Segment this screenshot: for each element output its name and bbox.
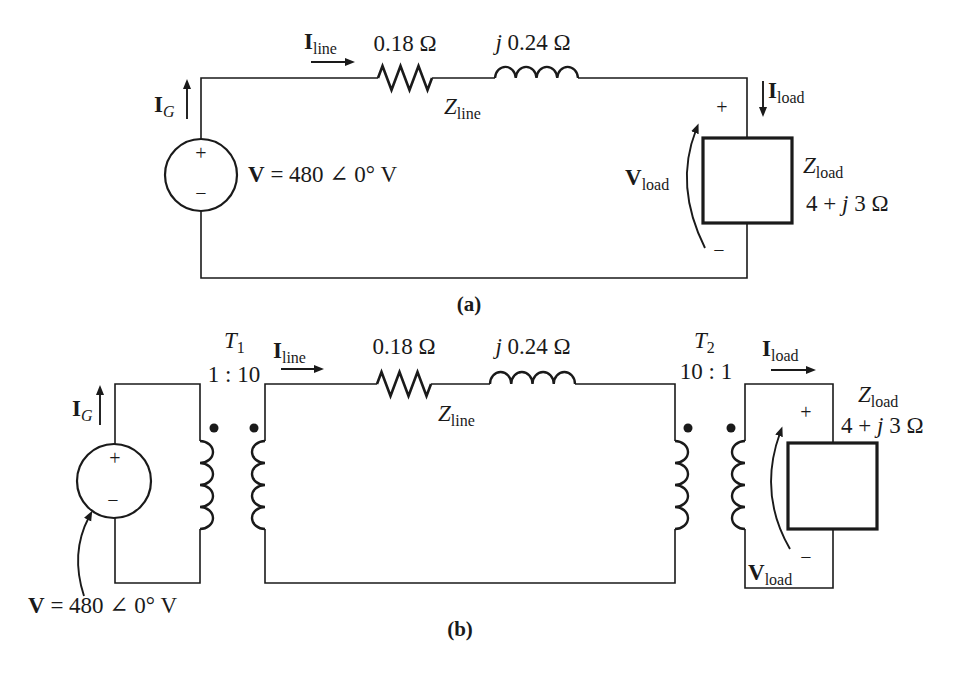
wire-middle-top-right-b xyxy=(575,384,675,441)
line-current-label-a: Iline xyxy=(304,29,337,57)
current-sub: load xyxy=(777,89,805,106)
load-plus-sign-b: + xyxy=(800,401,811,423)
load-impedance-value-b: 4 + j 3 Ω xyxy=(841,413,923,438)
resistor-symbol-a xyxy=(378,66,432,90)
transformer2-name: T2 xyxy=(694,328,715,356)
circuit-a: + − V = 480 ∠ 0° V IG Iline 0.18 Ω j 0.2… xyxy=(154,29,888,316)
minus-glyph: − xyxy=(107,489,118,511)
impedance-sub: line xyxy=(451,412,475,429)
vector-i: I xyxy=(768,78,777,103)
line-current-label-b: Iline xyxy=(273,338,306,366)
vector-v: V xyxy=(28,593,45,618)
value-post: 3 Ω xyxy=(883,413,923,438)
wire-load-loop-top-b xyxy=(745,384,833,443)
minus-glyph: − xyxy=(713,239,724,261)
vector-v: V xyxy=(748,560,765,585)
current-sub: G xyxy=(163,103,175,120)
voltage-sub: load xyxy=(765,571,793,588)
minus-glyph: − xyxy=(800,546,811,568)
wire-bottom-a xyxy=(201,211,747,278)
value-pre: 4 + xyxy=(806,191,842,216)
load-minus-sign-b: − xyxy=(800,546,811,568)
resistor-value-text: 0.18 Ω xyxy=(372,334,435,359)
load-current-label-b: Iload xyxy=(762,336,799,364)
vector-i: I xyxy=(72,396,81,421)
inductor-symbol-a xyxy=(495,67,578,78)
z-symbol: Z xyxy=(438,401,451,426)
caption-a: (a) xyxy=(457,292,482,316)
current-sub: line xyxy=(313,40,337,57)
value-post: 3 Ω xyxy=(848,191,888,216)
transformer1-secondary-coil xyxy=(252,441,265,529)
current-sub: line xyxy=(282,349,306,366)
impedance-sub: load xyxy=(871,393,899,410)
source-plus-sign-a: + xyxy=(195,142,206,164)
current-sub: load xyxy=(771,347,799,364)
load-box-b xyxy=(788,443,877,529)
wire-middle-bottom-b xyxy=(265,529,675,583)
line-impedance-label-a: Zline xyxy=(444,94,481,122)
plus-glyph: + xyxy=(800,401,811,423)
transformer1-primary-coil xyxy=(200,441,213,529)
t-sub: 2 xyxy=(707,339,715,356)
source-value-label-a: V = 480 ∠ 0° V xyxy=(248,162,397,187)
j-symbol: j xyxy=(492,334,501,359)
load-current-label-a: Iload xyxy=(768,78,805,106)
vector-i: I xyxy=(154,92,163,117)
line-impedance-label-b: Zline xyxy=(438,401,475,429)
polarity-dot-t2-primary xyxy=(684,424,693,433)
ratio-text: 1 : 10 xyxy=(208,362,260,387)
transformer1-name: T1 xyxy=(224,328,245,356)
impedance-sub: line xyxy=(457,105,481,122)
vector-i: I xyxy=(304,29,313,54)
circuit-b: + − V = 480 ∠ 0° V IG T1 1 : 10 Iline 0.… xyxy=(28,328,923,641)
resistor-symbol-b xyxy=(377,372,431,396)
vector-i: I xyxy=(273,338,282,363)
minus-glyph: − xyxy=(195,182,206,204)
impedance-sub: load xyxy=(816,164,844,181)
transformer2-secondary-coil xyxy=(732,441,745,529)
load-voltage-label-b: Vload xyxy=(748,560,792,588)
t-sub: 1 xyxy=(237,339,245,356)
transformer2-ratio: 10 : 1 xyxy=(680,359,732,384)
wire-top-left-a xyxy=(201,78,378,139)
j-symbol: j xyxy=(492,30,501,55)
wire-source-loop-top-b xyxy=(115,384,200,444)
current-sub: G xyxy=(81,407,93,424)
z-symbol: Z xyxy=(803,153,816,178)
polarity-dot-t2-secondary xyxy=(727,424,736,433)
load-voltage-label-a: Vload xyxy=(625,165,669,193)
source-plus-sign-b: + xyxy=(109,447,120,469)
inductor-symbol-b xyxy=(490,372,575,384)
source-value-label-b: V = 480 ∠ 0° V xyxy=(28,593,177,618)
load-plus-sign-a: + xyxy=(716,96,727,118)
inductor-value-text: 0.24 Ω xyxy=(502,334,571,359)
load-impedance-label-b: Zload xyxy=(858,382,898,410)
value-pre: 4 + xyxy=(841,413,877,438)
z-symbol: Z xyxy=(858,382,871,407)
load-minus-sign-a: − xyxy=(713,239,724,261)
resistor-value-a: 0.18 Ω xyxy=(373,31,436,56)
figure-canvas: + − V = 480 ∠ 0° V IG Iline 0.18 Ω j 0.2… xyxy=(0,0,958,677)
polarity-dot-t1-primary xyxy=(210,424,219,433)
caption-text: (a) xyxy=(457,292,482,316)
source-value: = 480 ∠ 0° V xyxy=(265,162,398,187)
load-impedance-label-a: Zload xyxy=(803,153,843,181)
resistor-value-text: 0.18 Ω xyxy=(373,31,436,56)
inductor-value-a: j 0.24 Ω xyxy=(492,30,570,55)
resistor-value-b: 0.18 Ω xyxy=(372,334,435,359)
z-symbol: Z xyxy=(444,94,457,119)
wire-middle-top-left-b xyxy=(265,384,377,441)
inductor-value-text: 0.24 Ω xyxy=(502,30,571,55)
voltage-sub: load xyxy=(642,176,670,193)
vector-v: V xyxy=(248,162,265,187)
inductor-value-b: j 0.24 Ω xyxy=(492,334,570,359)
circuit-figure: + − V = 480 ∠ 0° V IG Iline 0.18 Ω j 0.2… xyxy=(0,0,958,677)
load-impedance-value-a: 4 + j 3 Ω xyxy=(806,191,888,216)
polarity-dot-t1-secondary xyxy=(250,424,259,433)
vector-i: I xyxy=(762,336,771,361)
plus-glyph: + xyxy=(195,142,206,164)
wire-source-loop-bottom-b xyxy=(115,518,200,583)
transformer2-primary-coil xyxy=(675,441,688,529)
plus-glyph: + xyxy=(716,96,727,118)
